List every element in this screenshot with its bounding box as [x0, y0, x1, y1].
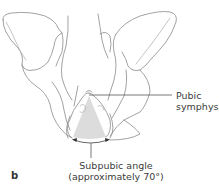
subpubic-angle-fill: [73, 96, 106, 139]
subpubic-angle-label-line2: (approximately 70°): [56, 171, 176, 182]
panel-letter: b: [11, 170, 18, 181]
left-ischium: [22, 65, 72, 138]
pubic-symphysis-label-line1: Pubic: [176, 90, 219, 101]
subpubic-angle-label: Subpubic angle (approximately 70°): [56, 160, 176, 182]
right-iliac-wing: [116, 12, 176, 71]
pubic-symphysis-label: Pubic symphysis: [176, 90, 219, 112]
pubic-symphysis-label-line2: symphysis: [176, 101, 219, 112]
arrowhead-right-icon: [105, 138, 110, 142]
subpubic-angle-label-line1: Subpubic angle: [56, 160, 176, 171]
subpubic-angle-arc: [74, 140, 108, 143]
right-ischium: [110, 70, 150, 136]
left-iliac-wing: [3, 12, 62, 70]
arrowhead-left-icon: [72, 138, 77, 142]
